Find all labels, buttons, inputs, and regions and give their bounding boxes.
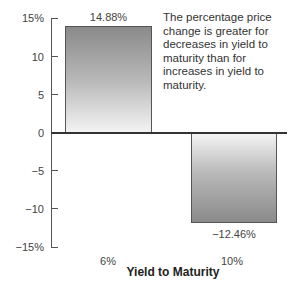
bar-value-label: 14.88%	[65, 11, 152, 23]
y-tick-label: −5	[4, 165, 44, 177]
y-tick-10	[51, 56, 58, 57]
y-tick-label: −15%	[4, 241, 44, 253]
y-tick-neg5	[51, 170, 58, 171]
y-tick-label: 15%	[4, 12, 44, 24]
y-tick-neg15	[51, 247, 58, 248]
bar-10-percent	[191, 134, 277, 223]
y-tick-label: 10	[4, 51, 44, 63]
y-tick-label: 0	[4, 127, 44, 139]
y-tick-label: 5	[4, 89, 44, 101]
y-tick-label: −10	[4, 203, 44, 215]
bar-value-label: −12.46%	[191, 228, 277, 240]
annotation-text: The percentage price change is greater f…	[163, 11, 295, 92]
y-tick-5	[51, 94, 58, 95]
zero-baseline	[51, 132, 287, 134]
x-axis-title: Yield to Maturity	[110, 266, 236, 279]
y-tick-neg10	[51, 208, 58, 209]
y-tick-15	[51, 18, 58, 19]
bar-6-percent	[65, 26, 152, 133]
